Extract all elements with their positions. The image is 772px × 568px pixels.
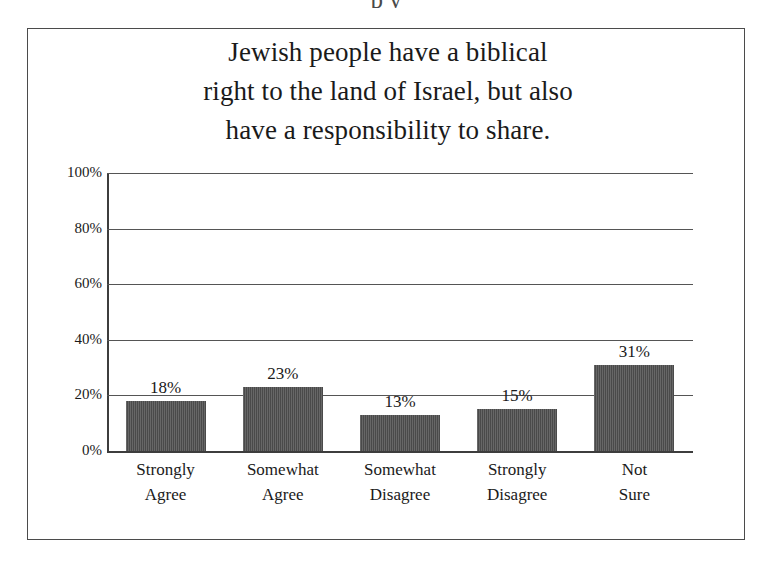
bar-value-label-3: 15%: [461, 387, 573, 404]
bar-somewhat-disagree[interactable]: [360, 415, 440, 451]
bar-value-label-1: 23%: [227, 365, 339, 382]
x-category-label-4-line-1: Not: [578, 457, 690, 482]
x-category-label-3-line-1: Strongly: [461, 457, 573, 482]
bar-value-label-2: 13%: [344, 393, 456, 410]
y-tick-label-0: 0%: [46, 443, 102, 458]
bar-slot-1: 23%: [243, 173, 323, 451]
figure-container: Jewish people have a biblicalright to th…: [27, 28, 745, 540]
bar-not-sure[interactable]: [594, 365, 674, 451]
plot-area: 18%23%13%15%31%: [107, 173, 693, 451]
x-category-label-1: SomewhatAgree: [227, 457, 339, 507]
plot-wrapper: 100%80%60%40%20%0% 18%23%13%15%31% Stron…: [28, 29, 746, 541]
x-axis-line: [107, 451, 693, 453]
y-axis-line: [107, 173, 109, 453]
bar-strongly-disagree[interactable]: [477, 409, 557, 451]
bar-value-label-0: 18%: [110, 379, 222, 396]
bar-slot-4: 31%: [594, 173, 674, 451]
y-tick-label-60: 60%: [46, 276, 102, 291]
x-category-label-0-line-2: Agree: [110, 482, 222, 507]
y-tick-label-80: 80%: [46, 221, 102, 236]
bar-strongly-agree[interactable]: [126, 401, 206, 451]
x-category-label-0: StronglyAgree: [110, 457, 222, 507]
x-category-label-3-line-2: Disagree: [461, 482, 573, 507]
x-category-label-2-line-1: Somewhat: [344, 457, 456, 482]
x-category-label-4: NotSure: [578, 457, 690, 507]
bar-value-label-4: 31%: [578, 343, 690, 360]
y-axis-tick-labels: 100%80%60%40%20%0%: [40, 173, 102, 451]
x-category-label-3: StronglyDisagree: [461, 457, 573, 507]
bar-slot-2: 13%: [360, 173, 440, 451]
x-category-label-2-line-2: Disagree: [344, 482, 456, 507]
bar-somewhat-agree[interactable]: [243, 387, 323, 451]
x-category-label-2: SomewhatDisagree: [344, 457, 456, 507]
bar-slot-3: 15%: [477, 173, 557, 451]
x-category-label-1-line-1: Somewhat: [227, 457, 339, 482]
y-tick-label-100: 100%: [46, 165, 102, 180]
x-axis-category-labels: StronglyAgreeSomewhatAgreeSomewhatDisagr…: [107, 457, 693, 521]
y-tick-label-40: 40%: [46, 332, 102, 347]
x-category-label-4-line-2: Sure: [578, 482, 690, 507]
clipped-text-above-figure: p y: [0, 0, 772, 8]
y-tick-label-20: 20%: [46, 387, 102, 402]
bar-slot-0: 18%: [126, 173, 206, 451]
x-category-label-1-line-2: Agree: [227, 482, 339, 507]
x-category-label-0-line-1: Strongly: [110, 457, 222, 482]
